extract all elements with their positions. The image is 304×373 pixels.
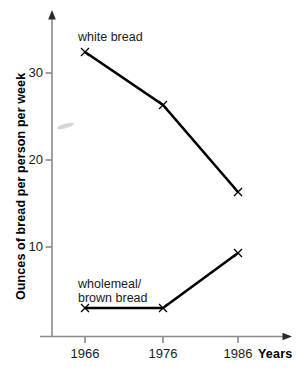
x-tick-label-1976: 1976 <box>139 347 187 362</box>
series-markers-white-bread <box>81 48 242 196</box>
series-line-white-bread <box>85 52 238 192</box>
y-axis-arrowhead <box>48 10 56 20</box>
chart-plot-area <box>0 0 304 373</box>
x-tick-label-1966: 1966 <box>61 347 109 362</box>
x-axis-title: Years <box>258 347 292 361</box>
x-axis-arrowhead <box>283 333 293 341</box>
y-axis-title: Ounces of bread per person per week <box>14 73 28 300</box>
x-tick-label-1986: 1986 <box>214 347 262 362</box>
line-chart: 30 20 10 1966 1976 1986 Years Ounces of … <box>0 0 304 373</box>
series-label-wholemeal-line1: wholemeal/ <box>78 277 141 291</box>
series-label-wholemeal-line2: brown bread <box>78 291 148 305</box>
series-label-white-bread: white bread <box>78 30 143 44</box>
